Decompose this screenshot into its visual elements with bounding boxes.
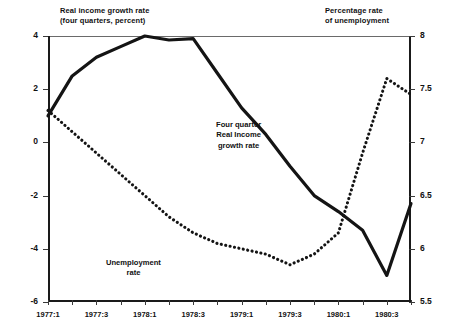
right-tick xyxy=(409,302,415,303)
bottom-tick-label: 1980:3 xyxy=(362,310,412,319)
plot-area: 420-2-4-6 87.576.565.5 1977:11977:31978:… xyxy=(48,36,411,302)
right-tick-label: 6.5 xyxy=(420,190,432,200)
left-tick-label: 2 xyxy=(4,83,38,93)
bottom-tick-label: 1979:3 xyxy=(265,310,315,319)
right-tick-label: 8 xyxy=(420,30,425,40)
chart-figure: Real income growth rate (four quarters, … xyxy=(0,0,475,334)
series-lines xyxy=(48,36,411,302)
series-path xyxy=(48,79,411,265)
bottom-tick-label: 1980:1 xyxy=(313,310,363,319)
income-series-annotation: Four quarter Real Income growth rate xyxy=(216,120,261,151)
bottom-tick-label: 1979:1 xyxy=(217,310,267,319)
unemployment-series-annotation: Unemployment rate xyxy=(106,258,161,279)
right-tick-label: 7 xyxy=(420,136,425,146)
right-tick-label: 6 xyxy=(420,243,425,253)
left-tick-label: -4 xyxy=(4,243,38,253)
series-path xyxy=(48,36,411,275)
left-axis-title: Real income growth rate (four quarters, … xyxy=(60,6,149,26)
left-tick-label: -2 xyxy=(4,190,38,200)
bottom-tick xyxy=(411,300,412,305)
right-tick-label: 5.5 xyxy=(420,296,432,306)
bottom-tick-label: 1978:3 xyxy=(168,310,218,319)
bottom-tick-label: 1977:1 xyxy=(23,310,73,319)
right-axis-title: Percentage rate of unemployment xyxy=(325,6,389,26)
left-tick-label: -6 xyxy=(4,296,38,306)
left-tick-label: 0 xyxy=(4,136,38,146)
bottom-tick-label: 1977:3 xyxy=(71,310,121,319)
right-tick-label: 7.5 xyxy=(420,83,432,93)
bottom-tick-label: 1978:1 xyxy=(120,310,170,319)
left-tick-label: 4 xyxy=(4,30,38,40)
